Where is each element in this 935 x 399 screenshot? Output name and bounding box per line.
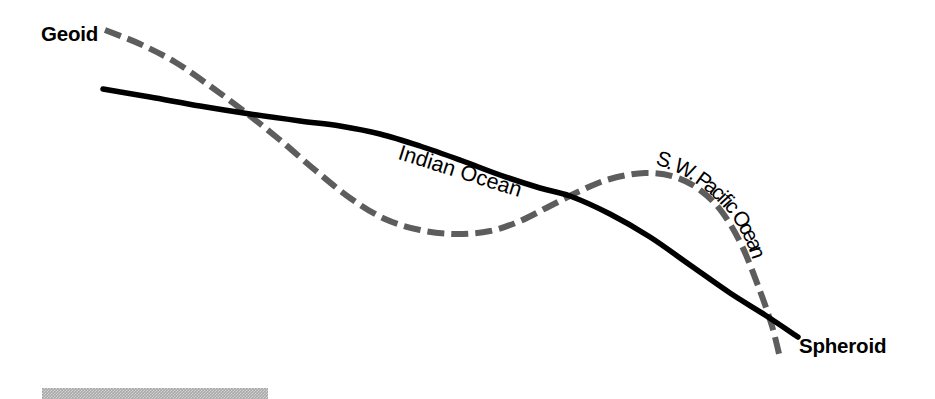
- spheroid-label: Spheroid: [799, 336, 886, 357]
- bottom-scale-bar: [42, 388, 268, 399]
- geoid-label: Geoid: [41, 24, 98, 45]
- spheroid-curve: [103, 89, 798, 337]
- geoid-curve: [105, 30, 780, 358]
- geoid-spheroid-diagram: Geoid Spheroid Indian Ocean S. W. Pacifi…: [0, 0, 935, 399]
- diagram-canvas: [0, 0, 935, 399]
